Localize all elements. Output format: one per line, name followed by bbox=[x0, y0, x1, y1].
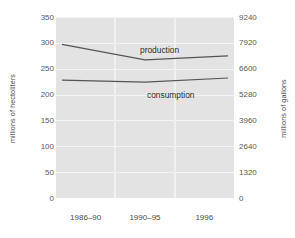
chart-title: WORLD WINE PRODUCTION AND CONSUMPTION bbox=[0, 0, 295, 2]
y-tick-right-6: 1320 bbox=[239, 168, 279, 177]
y-tick-left-7: 0 bbox=[14, 194, 54, 203]
series-label-production: production bbox=[140, 45, 179, 55]
y-tick-left-1: 300 bbox=[14, 38, 54, 47]
y-tick-right-5: 2640 bbox=[239, 142, 279, 151]
y-tick-right-7: 0 bbox=[239, 194, 279, 203]
y-tick-right-3: 5280 bbox=[239, 90, 279, 99]
y-tick-right-2: 6600 bbox=[239, 64, 279, 73]
series-label-consumption: consumption bbox=[147, 90, 195, 100]
y-tick-right-0: 9240 bbox=[239, 13, 279, 22]
y-tick-left-6: 50 bbox=[14, 168, 54, 177]
y-axis-label-right: millions of gallons bbox=[279, 59, 288, 159]
y-tick-left-2: 250 bbox=[14, 64, 54, 73]
y-tick-left-5: 100 bbox=[14, 142, 54, 151]
x-tick-2: 1996 bbox=[175, 213, 234, 223]
chart-container: WORLD WINE PRODUCTION AND CONSUMPTION mi… bbox=[0, 0, 295, 238]
line-consumption bbox=[62, 78, 228, 82]
y-tick-left-4: 150 bbox=[14, 116, 54, 125]
y-tick-left-3: 200 bbox=[14, 90, 54, 99]
y-tick-left-0: 350 bbox=[14, 13, 54, 22]
x-tick-0: 1986–90 bbox=[56, 213, 115, 223]
y-tick-right-1: 7920 bbox=[239, 38, 279, 47]
x-tick-1: 1990–95 bbox=[115, 213, 174, 223]
y-tick-right-4: 3960 bbox=[239, 116, 279, 125]
